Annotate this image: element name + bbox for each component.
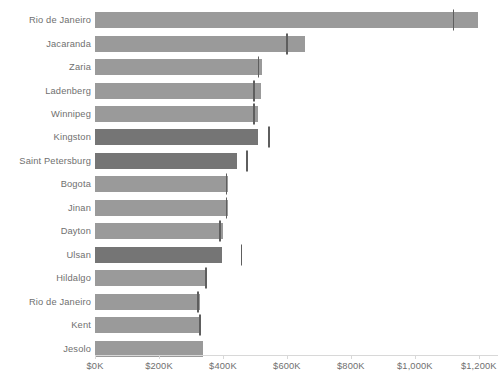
bar[interactable] — [95, 176, 228, 192]
category-label: Dayton — [61, 226, 91, 237]
x-axis-tick-mark — [351, 356, 352, 359]
bar-chart: Rio de JaneiroJacarandaZariaLadenbergWin… — [0, 0, 498, 382]
bar[interactable] — [95, 294, 200, 310]
category-label: Jacaranda — [46, 38, 91, 49]
bar-row[interactable]: Ladenberg — [0, 79, 498, 102]
bar[interactable] — [95, 247, 222, 263]
x-axis-tick-label: $1,200K — [461, 361, 497, 371]
bar-row[interactable]: Jinan — [0, 196, 498, 219]
reference-line-marker — [286, 33, 288, 54]
category-label: Kent — [71, 320, 91, 331]
reference-line-marker — [253, 80, 255, 101]
bar[interactable] — [95, 36, 305, 52]
x-axis-tick-mark — [479, 356, 480, 359]
x-axis-tick-label: $1,000K — [397, 361, 433, 371]
bar-row[interactable]: Rio de Janeiro — [0, 290, 498, 313]
x-axis-tick-mark — [159, 356, 160, 359]
bar-row[interactable]: Ulsan — [0, 243, 498, 266]
bar[interactable] — [95, 153, 237, 169]
category-label: Zaria — [69, 62, 91, 73]
reference-line-marker — [258, 57, 260, 78]
bar[interactable] — [95, 59, 262, 75]
x-axis-tick-label: $200K — [145, 361, 173, 371]
category-label: Saint Petersburg — [19, 155, 91, 166]
category-label: Hildalgo — [56, 273, 91, 284]
bar[interactable] — [95, 223, 223, 239]
x-axis-tick-mark — [415, 356, 416, 359]
reference-line-marker — [226, 197, 228, 218]
x-axis-tick-mark — [223, 356, 224, 359]
reference-line-marker — [226, 174, 228, 195]
bar[interactable] — [95, 106, 258, 122]
category-label: Rio de Janeiro — [29, 15, 91, 26]
x-axis-tick-mark — [287, 356, 288, 359]
bar[interactable] — [95, 129, 258, 145]
bar-row[interactable]: Saint Petersburg — [0, 149, 498, 172]
reference-line-marker — [199, 315, 201, 336]
bar-row[interactable]: Kingston — [0, 126, 498, 149]
reference-line-marker — [453, 10, 455, 31]
bar-row[interactable]: Bogota — [0, 173, 498, 196]
x-axis-tick-label: $400K — [209, 361, 237, 371]
category-label: Ulsan — [66, 249, 91, 260]
bar[interactable] — [95, 83, 261, 99]
reference-line-marker — [253, 104, 255, 125]
bar-row[interactable]: Hildalgo — [0, 266, 498, 289]
reference-line-marker — [219, 221, 221, 242]
bar-row[interactable]: Zaria — [0, 55, 498, 78]
x-axis-tick-labels: $0K$200K$400K$600K$800K$1,000K$1,200K — [0, 356, 498, 382]
bar-row[interactable]: Rio de Janeiro — [0, 9, 498, 32]
reference-line-marker — [268, 127, 270, 148]
category-label: Kingston — [54, 132, 91, 143]
bar-row[interactable]: Kent — [0, 313, 498, 336]
reference-line-marker — [241, 244, 243, 265]
bar-row[interactable]: Jacaranda — [0, 32, 498, 55]
category-label: Rio de Janeiro — [29, 296, 91, 307]
x-axis-tick-mark — [95, 356, 96, 359]
x-axis-tick-label: $0K — [87, 361, 104, 371]
category-label: Ladenberg — [45, 85, 91, 96]
category-label: Jesolo — [63, 343, 91, 354]
reference-line-marker — [205, 268, 207, 289]
category-label: Jinan — [68, 202, 91, 213]
category-label: Winnipeg — [51, 109, 91, 120]
x-axis-tick-label: $600K — [273, 361, 301, 371]
reference-line-marker — [246, 150, 248, 171]
x-axis-tick-label: $800K — [337, 361, 365, 371]
bar[interactable] — [95, 270, 207, 286]
category-label: Bogota — [61, 179, 91, 190]
bar[interactable] — [95, 200, 228, 216]
plot-area: Rio de JaneiroJacarandaZariaLadenbergWin… — [0, 0, 498, 355]
bar[interactable] — [95, 12, 478, 28]
bar-row[interactable]: Dayton — [0, 220, 498, 243]
reference-line-marker — [197, 291, 199, 312]
bar[interactable] — [95, 317, 200, 333]
bar-row[interactable]: Winnipeg — [0, 102, 498, 125]
